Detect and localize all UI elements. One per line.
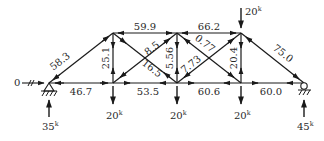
member-force-arrows <box>53 33 299 83</box>
reaction-A-value: 35k <box>42 120 59 132</box>
pin-support <box>41 83 57 96</box>
reaction-E-vertical: 45k <box>297 100 314 132</box>
reaction-E-value: 45k <box>297 120 314 132</box>
load-H-value: 20k <box>245 5 262 17</box>
roller-support <box>298 83 311 95</box>
label-BC: 53.5 <box>137 86 159 97</box>
label-GC: 5.56 <box>164 47 175 69</box>
label-DE: 60.0 <box>260 86 282 97</box>
label-FG: 59.9 <box>134 21 156 32</box>
load-D-value: 20k <box>234 109 251 121</box>
truss-diagram: 58.3 46.7 53.5 60.6 60.0 59.9 66.2 25.1 … <box>0 0 324 141</box>
reaction-A-horizontal: 0 <box>14 77 44 88</box>
label-HE: 75.0 <box>271 42 295 64</box>
label-BG: 8.5 <box>142 39 161 57</box>
truss-members <box>49 33 304 83</box>
load-C: 20k <box>170 86 187 121</box>
label-AB: 46.7 <box>70 86 92 97</box>
load-B-value: 20k <box>106 109 123 121</box>
label-CD: 60.6 <box>198 86 220 97</box>
label-AF: 58.3 <box>48 50 72 72</box>
load-D: 20k <box>234 86 251 121</box>
label-HD: 20.4 <box>228 47 239 69</box>
label-FB: 25.1 <box>100 47 111 69</box>
label-FC: 16.5 <box>140 57 164 79</box>
reaction-A-vertical: 35k <box>42 100 59 132</box>
load-H: 20k <box>241 5 262 28</box>
load-C-value: 20k <box>170 109 187 121</box>
load-B: 20k <box>106 86 123 121</box>
label-GH: 66.2 <box>198 21 220 32</box>
label-GD: 0.77 <box>193 32 217 54</box>
reaction-A-horizontal-value: 0 <box>14 77 20 88</box>
